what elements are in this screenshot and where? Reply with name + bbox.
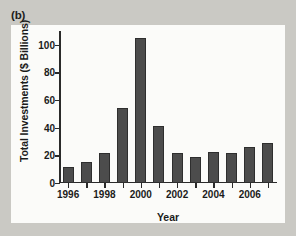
x-axis-tick-mark xyxy=(141,183,142,188)
bar xyxy=(262,143,273,183)
chart-card: Total Investments ($ Billions) 020406080… xyxy=(11,25,285,223)
y-axis-tick-label: 20 xyxy=(29,150,55,161)
bar xyxy=(117,108,128,183)
y-axis-tick-label: 60 xyxy=(29,95,55,106)
y-axis-tick-mark xyxy=(55,45,60,46)
bar xyxy=(81,162,92,183)
x-axis-tick-mark xyxy=(86,183,87,188)
axis-area: 199619982000200220042006 Year xyxy=(59,31,277,223)
x-axis-tick-mark xyxy=(123,183,124,188)
bar xyxy=(99,153,110,183)
x-axis-tick-label: 1998 xyxy=(93,189,115,200)
y-axis-tick-label: 80 xyxy=(29,67,55,78)
y-axis-tick-labels: 020406080100 xyxy=(29,25,55,223)
y-axis-tick-label: 0 xyxy=(29,178,55,189)
bar-series xyxy=(59,31,277,183)
x-axis-tick-label: 2004 xyxy=(202,189,224,200)
bar xyxy=(153,126,164,183)
x-axis-tick-mark xyxy=(250,183,251,188)
x-axis-tick-label: 2006 xyxy=(239,189,261,200)
x-axis-tick-mark xyxy=(177,183,178,188)
y-axis-tick-mark xyxy=(55,183,60,184)
y-axis-tick-label: 100 xyxy=(29,39,55,50)
x-axis-tick-mark xyxy=(195,183,196,188)
y-axis-tick-mark xyxy=(55,72,60,73)
x-axis-tick-mark xyxy=(104,183,105,188)
x-axis-tick-mark xyxy=(213,183,214,188)
x-axis-tick-mark xyxy=(68,183,69,188)
y-axis-tick-label: 40 xyxy=(29,122,55,133)
x-axis-tick-mark xyxy=(232,183,233,188)
bar xyxy=(135,38,146,183)
bar xyxy=(208,152,219,183)
bar xyxy=(190,157,201,183)
y-axis-tick-mark xyxy=(55,100,60,101)
x-axis-title: Year xyxy=(59,211,277,223)
y-axis-tick-mark xyxy=(55,155,60,156)
x-axis-tick-mark xyxy=(159,183,160,188)
figure-panel: (b) Total Investments ($ Billions) 02040… xyxy=(0,0,296,236)
x-axis-tick-mark xyxy=(268,183,269,188)
x-axis-tick-label: 2000 xyxy=(130,189,152,200)
x-axis-tick-label: 2002 xyxy=(166,189,188,200)
bar xyxy=(226,153,237,183)
y-axis-tick-mark xyxy=(55,128,60,129)
bar xyxy=(63,167,74,183)
chart-plot-region: Total Investments ($ Billions) 020406080… xyxy=(11,25,285,223)
bar xyxy=(172,153,183,183)
bar xyxy=(244,147,255,183)
x-axis-tick-label: 1996 xyxy=(57,189,79,200)
x-axis-tick-labels: 199619982000200220042006 xyxy=(59,189,277,205)
